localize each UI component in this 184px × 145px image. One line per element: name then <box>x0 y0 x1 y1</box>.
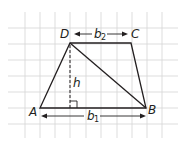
trapezoid-diagram: D C A B h b 2 b 1 <box>0 0 184 145</box>
vertex-label-b: B <box>148 103 156 117</box>
b2-subscript: 2 <box>101 33 106 42</box>
vertex-label-d: D <box>60 27 69 41</box>
diagonal-db <box>70 43 146 108</box>
height-label: h <box>73 76 81 90</box>
right-angle-marker <box>70 101 77 108</box>
vertex-label-a: A <box>28 105 37 119</box>
vertex-label-c: C <box>131 27 140 41</box>
trapezoid-outline <box>40 43 146 108</box>
b1-subscript: 1 <box>94 115 99 124</box>
